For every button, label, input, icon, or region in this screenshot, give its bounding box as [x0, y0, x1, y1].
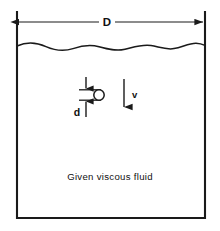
viscous-fluid-diagram: D d v Given viscous fluid — [0, 0, 220, 231]
fluid-surface-line — [17, 43, 205, 50]
fluid-caption: Given viscous fluid — [67, 171, 153, 182]
diagram-canvas: D d v Given viscous fluid — [0, 0, 220, 231]
container-width-label: D — [103, 16, 111, 28]
sphere-diameter-label: d — [74, 106, 80, 118]
falling-sphere — [94, 90, 104, 100]
container-outline — [17, 12, 205, 218]
velocity-label: v — [132, 89, 138, 100]
